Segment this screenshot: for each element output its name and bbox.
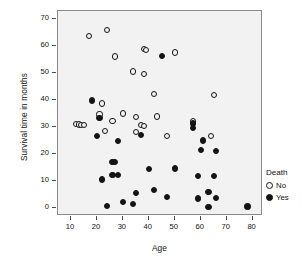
y-tick-label: 60 (9, 41, 49, 49)
y-tick-label: 0 (9, 203, 49, 211)
legend-item-no[interactable]: No (266, 179, 302, 191)
data-point-no (102, 128, 108, 134)
y-tick-label: 10 (9, 176, 49, 184)
y-tick-label: 20 (9, 149, 49, 157)
plot-panel (57, 10, 262, 215)
data-point-yes (151, 187, 157, 193)
data-point-yes (104, 203, 110, 209)
data-point-no (208, 133, 214, 139)
data-point-yes (205, 204, 211, 210)
x-tick-mark (96, 216, 97, 220)
data-point-no (104, 27, 110, 33)
data-point-no (120, 110, 126, 116)
y-tick-label: 70 (9, 14, 49, 22)
y-tick-mark (52, 45, 56, 46)
legend-label-no: No (276, 181, 286, 190)
data-point-yes (146, 166, 152, 172)
y-tick-mark (52, 153, 56, 154)
y-axis-title: Survival time in months (19, 37, 29, 197)
data-point-no (141, 123, 147, 129)
data-point-no (130, 68, 136, 74)
legend-title: Death (266, 168, 302, 177)
data-point-yes (130, 201, 136, 207)
data-point-yes (213, 148, 219, 154)
legend-label-yes: Yes (276, 193, 289, 202)
data-point-yes (89, 97, 95, 103)
y-tick-label: 40 (9, 95, 49, 103)
data-point-no (151, 91, 157, 97)
data-point-no (99, 100, 105, 106)
legend: Death No Yes (266, 168, 302, 203)
y-tick-label: 30 (9, 122, 49, 130)
y-tick-mark (52, 18, 56, 19)
x-tick-mark (148, 216, 149, 220)
filled-circle-icon (266, 194, 273, 201)
data-point-yes (115, 138, 121, 144)
data-point-yes (133, 190, 139, 196)
y-tick-mark (52, 72, 56, 73)
data-point-no (172, 49, 178, 55)
data-point-no (211, 92, 217, 98)
data-point-yes (195, 173, 201, 179)
data-point-yes (96, 115, 102, 121)
legend-item-yes[interactable]: Yes (266, 191, 302, 203)
data-point-no (154, 113, 160, 119)
y-tick-label: 50 (9, 68, 49, 76)
data-point-no (143, 47, 149, 53)
x-axis-title: Age (57, 243, 262, 253)
data-point-yes (195, 195, 201, 201)
data-point-yes (94, 133, 100, 139)
x-tick-mark (174, 216, 175, 220)
data-point-no (109, 118, 115, 124)
x-tick-mark (252, 216, 253, 220)
x-tick-label: 80 (237, 223, 267, 231)
y-tick-mark (52, 99, 56, 100)
data-point-yes (200, 137, 206, 143)
data-point-yes (164, 194, 170, 200)
x-tick-mark (226, 216, 227, 220)
data-point-yes (213, 195, 219, 201)
data-point-no (133, 114, 139, 120)
data-point-no (164, 133, 170, 139)
data-point-yes (190, 120, 196, 126)
data-point-yes (244, 203, 250, 209)
data-point-no (112, 53, 118, 59)
data-point-yes (211, 173, 217, 179)
data-point-yes (159, 53, 165, 59)
data-point-yes (198, 147, 204, 153)
data-point-yes (205, 189, 211, 195)
y-tick-mark (52, 207, 56, 208)
scatter-plot-figure: Survival time in months 0102030405060701… (0, 0, 302, 269)
x-tick-mark (70, 216, 71, 220)
data-point-yes (172, 165, 178, 171)
data-point-yes (138, 132, 144, 138)
y-tick-mark (52, 126, 56, 127)
data-point-yes (115, 172, 121, 178)
data-point-no (141, 71, 147, 77)
x-tick-mark (200, 216, 201, 220)
x-tick-mark (122, 216, 123, 220)
y-tick-mark (52, 180, 56, 181)
data-point-yes (120, 199, 126, 205)
data-point-yes (99, 176, 105, 182)
data-point-no (81, 122, 87, 128)
data-point-no (86, 33, 92, 39)
open-circle-icon (266, 182, 273, 189)
data-point-yes (112, 159, 118, 165)
